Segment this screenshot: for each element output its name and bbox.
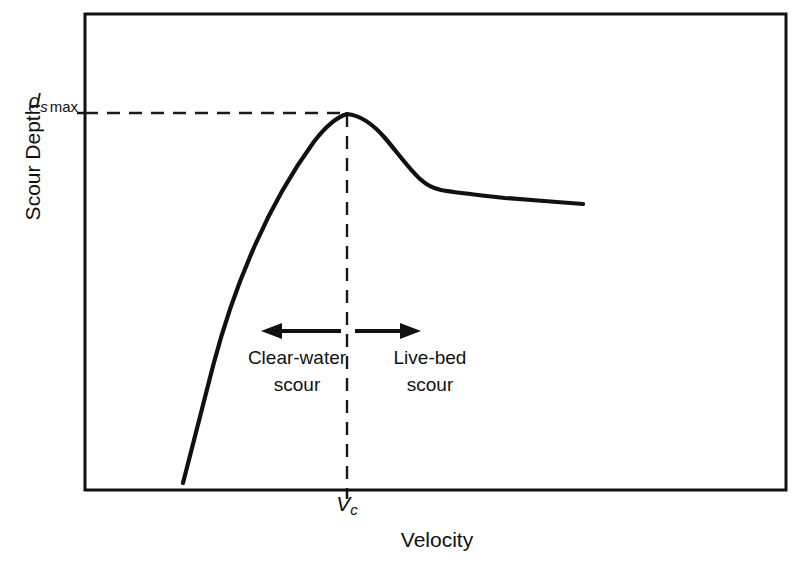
ds-max-main: d: [28, 89, 40, 112]
live-bed-scour-line1: Live-bed: [355, 344, 505, 371]
y-tick-label-ds-max: dsmax: [0, 89, 78, 115]
x-axis-title: Velocity: [372, 528, 502, 552]
ds-max-subscript-max: max: [48, 98, 78, 115]
left-arrow-icon: [261, 323, 341, 339]
plot-canvas: [0, 0, 798, 572]
right-arrow-icon: [355, 323, 421, 339]
ds-max-subscript-s: s: [40, 98, 48, 115]
vc-main: V: [336, 492, 350, 515]
scour-depth-curve: [183, 114, 583, 483]
scour-depth-velocity-figure: Scour Depth dsmax Vc Velocity Clear-wate…: [0, 0, 798, 572]
live-bed-scour-label: Live-bed scour: [355, 344, 505, 398]
plot-frame: [85, 14, 786, 490]
live-bed-scour-line2: scour: [355, 371, 505, 398]
x-tick-label-vc: Vc: [312, 492, 382, 518]
vc-subscript-c: c: [350, 501, 358, 518]
